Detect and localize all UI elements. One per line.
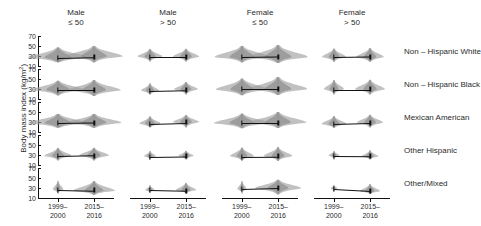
x-axis-tick-mark <box>334 199 335 202</box>
x-axis-tick-label-line1: 1999– <box>41 203 75 212</box>
row-label-3: Mexican American <box>404 113 469 122</box>
x-axis-tick-label: 2015–2016 <box>77 203 111 220</box>
x-axis-tick-label: 1999–2000 <box>133 203 167 220</box>
x-axis-tick-label: 2015–2016 <box>353 203 387 220</box>
panel-2-3[interactable] <box>222 69 298 99</box>
x-axis-line <box>38 198 114 199</box>
x-axis-tick-mark <box>58 199 59 202</box>
trend-line <box>150 156 187 158</box>
column-header-sex: Female <box>314 8 390 18</box>
x-axis-tick-label-line1: 1999– <box>133 203 167 212</box>
x-axis-tick-mark <box>150 199 151 202</box>
panel-row-1: 70503010 <box>38 36 390 66</box>
trend-line <box>242 156 278 158</box>
column-header-sex: Male <box>38 8 114 18</box>
panel-4-1[interactable] <box>38 135 114 165</box>
x-axis-tick-label-line2: 2016 <box>169 212 203 221</box>
x-axis-tick-label-line1: 2015– <box>261 203 295 212</box>
panel-4-3[interactable] <box>222 135 298 165</box>
panel-3-1[interactable] <box>38 102 114 132</box>
y-axis-tick-label: 70 <box>28 66 36 73</box>
panel-row-5: 70503010 <box>38 168 390 198</box>
x-axis-tick-label: 2015–2016 <box>261 203 295 220</box>
y-axis-tick-label: 30 <box>28 185 36 192</box>
trend-line <box>150 90 187 92</box>
y-axis-ticks: 70503010 <box>16 168 36 198</box>
column-header-2: Male> 50 <box>130 8 206 28</box>
x-axis-tick-label-line1: 2015– <box>353 203 387 212</box>
row-label-5: Other/Mixed <box>404 179 448 188</box>
x-axis-tick-label: 1999–2000 <box>225 203 259 220</box>
x-axis-tick-label-line2: 2000 <box>317 212 351 221</box>
panel-3-2[interactable] <box>130 102 206 132</box>
panel-3-4[interactable] <box>314 102 390 132</box>
y-axis-tick-mark <box>38 165 41 166</box>
y-axis-tick-mark <box>38 132 41 133</box>
panel-4-4[interactable] <box>314 135 390 165</box>
panel-1-1[interactable] <box>38 36 114 66</box>
x-axis-tick-mark <box>94 199 95 202</box>
trend-line <box>150 190 187 192</box>
column-header-age: > 50 <box>130 18 206 28</box>
trend-line <box>334 156 370 158</box>
y-axis-tick-label: 50 <box>28 142 36 149</box>
x-axis-tick-label-line2: 2016 <box>77 212 111 221</box>
x-axis-tick-mark <box>242 199 243 202</box>
panel-4-2[interactable] <box>130 135 206 165</box>
y-axis-tick-label: 30 <box>28 152 36 159</box>
row-label-1: Non – Hispanic White <box>404 47 481 56</box>
panel-5-1[interactable] <box>38 168 114 198</box>
panel-1-3[interactable] <box>222 36 298 66</box>
x-axis-tick-label-line1: 1999– <box>225 203 259 212</box>
panel-2-2[interactable] <box>130 69 206 99</box>
x-axis-tick-label-line1: 1999– <box>317 203 351 212</box>
trend-line <box>334 89 370 90</box>
panel-row-2: 70503010 <box>38 69 390 99</box>
trend-line <box>58 190 95 192</box>
column-header-3: Female≤ 50 <box>222 8 298 28</box>
x-axis-tick-label-line2: 2016 <box>353 212 387 221</box>
x-axis-tick-label-line1: 2015– <box>169 203 203 212</box>
x-axis-tick-label: 1999–2000 <box>41 203 75 220</box>
panel-1-4[interactable] <box>314 36 390 66</box>
column-header-age: ≤ 50 <box>222 18 298 28</box>
x-axis-tick-label-line2: 2000 <box>41 212 75 221</box>
x-axis-tick-mark <box>370 199 371 202</box>
y-axis-tick-label: 10 <box>28 195 36 202</box>
column-header-1: Male≤ 50 <box>38 8 114 28</box>
trend-line <box>150 57 186 58</box>
panel-1-2[interactable] <box>130 36 206 66</box>
row-label-2: Non – Hispanic Black <box>404 80 480 89</box>
x-axis-tick-label-line2: 2000 <box>225 212 259 221</box>
y-axis-tick-mark <box>38 99 41 100</box>
column-header-age: > 50 <box>314 18 390 28</box>
y-axis-tick-mark <box>38 66 41 67</box>
x-axis-tick-mark <box>186 199 187 202</box>
x-axis-line <box>314 198 390 199</box>
x-axis-line <box>222 198 298 199</box>
panel-row-3: 70503010 <box>38 102 390 132</box>
trend-line <box>242 123 278 124</box>
panel-2-4[interactable] <box>314 69 390 99</box>
trend-line <box>58 90 94 91</box>
y-axis-tick-label: 50 <box>28 175 36 182</box>
panel-2-1[interactable] <box>38 69 114 99</box>
trend-line <box>58 57 95 59</box>
x-axis-tick-mark <box>278 199 279 202</box>
column-header-age: ≤ 50 <box>38 18 114 28</box>
x-axis-tick-label-line2: 2000 <box>133 212 167 221</box>
row-label-4: Other Hispanic <box>404 146 457 155</box>
panel-5-4[interactable] <box>314 168 390 198</box>
x-axis-tick-label: 1999–2000 <box>317 203 351 220</box>
x-axis-tick-label-line2: 2016 <box>261 212 295 221</box>
column-header-sex: Female <box>222 8 298 18</box>
panel-5-2[interactable] <box>130 168 206 198</box>
panel-3-3[interactable] <box>222 102 298 132</box>
y-axis-tick-label: 70 <box>28 33 36 40</box>
panel-5-3[interactable] <box>222 168 298 198</box>
y-axis-tick-label: 70 <box>28 99 36 106</box>
x-axis-line <box>130 198 206 199</box>
x-axis-tick-label-line1: 2015– <box>77 203 111 212</box>
column-header-sex: Male <box>130 8 206 18</box>
